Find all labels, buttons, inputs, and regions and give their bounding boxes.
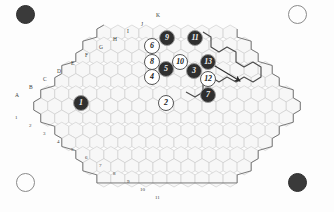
- col-label-1: 1: [15, 115, 18, 120]
- token-10[interactable]: 10: [172, 54, 188, 70]
- corner-bottom-right[interactable]: [288, 173, 307, 192]
- hex-cell[interactable]: [167, 171, 181, 187]
- token-label: 13: [204, 58, 212, 66]
- col-label-11: 11: [155, 195, 160, 200]
- col-label-4: 4: [57, 139, 60, 144]
- hex-cell[interactable]: [153, 171, 167, 187]
- token-label: 1: [79, 99, 83, 107]
- token-label: 8: [150, 58, 154, 66]
- hex-cell[interactable]: [97, 171, 111, 187]
- token-label: 11: [191, 34, 198, 42]
- row-label-g: G: [99, 45, 103, 51]
- token-label: 9: [165, 34, 169, 42]
- col-label-6: 6: [85, 155, 88, 160]
- hex-cell[interactable]: [223, 171, 237, 187]
- token-12[interactable]: 12: [200, 71, 216, 87]
- row-label-c: C: [43, 77, 47, 83]
- row-label-f: F: [85, 53, 88, 59]
- token-7[interactable]: 7: [200, 87, 216, 103]
- row-label-e: E: [71, 61, 74, 67]
- token-2[interactable]: 2: [158, 95, 174, 111]
- hex-cell[interactable]: [209, 171, 223, 187]
- row-label-b: B: [29, 85, 33, 91]
- col-label-10: 10: [140, 187, 145, 192]
- col-label-3: 3: [43, 131, 46, 136]
- hex-cell[interactable]: [195, 171, 209, 187]
- row-label-h: H: [113, 37, 117, 43]
- row-label-i: I: [127, 29, 129, 35]
- token-9[interactable]: 9: [159, 30, 175, 46]
- token-label: 5: [164, 65, 168, 73]
- corner-top-left[interactable]: [16, 5, 35, 24]
- hex-cell[interactable]: [139, 171, 153, 187]
- token-label: 6: [150, 42, 154, 50]
- token-label: 10: [176, 58, 184, 66]
- row-label-j: J: [141, 22, 143, 28]
- token-label: 4: [150, 73, 154, 81]
- token-label: 3: [192, 67, 196, 75]
- token-6[interactable]: 6: [144, 38, 160, 54]
- token-label: 2: [164, 99, 168, 107]
- col-label-5: 5: [71, 147, 74, 152]
- board-canvas: ABCDEFGHIJK1234567891011 123456789101112…: [0, 0, 334, 212]
- token-label: 7: [206, 91, 210, 99]
- row-label-k: K: [156, 13, 160, 19]
- hex-cell[interactable]: [181, 171, 195, 187]
- token-13[interactable]: 13: [200, 54, 216, 70]
- col-label-8: 8: [113, 171, 116, 176]
- row-label-d: D: [57, 69, 61, 75]
- corner-bottom-left[interactable]: [16, 173, 35, 192]
- token-1[interactable]: 1: [73, 95, 89, 111]
- row-label-a: A: [15, 93, 19, 99]
- corner-top-right[interactable]: [288, 5, 307, 24]
- token-11[interactable]: 11: [187, 30, 203, 46]
- col-label-7: 7: [99, 163, 102, 168]
- token-label: 12: [204, 75, 212, 83]
- col-label-9: 9: [127, 179, 130, 184]
- col-label-2: 2: [29, 123, 32, 128]
- token-8[interactable]: 8: [144, 54, 160, 70]
